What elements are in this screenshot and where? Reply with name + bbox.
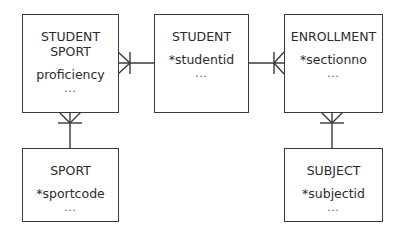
entity-name: ENROLLMENT [291,29,376,44]
entity-attribute: *subjectid [302,186,365,201]
entity-more: ... [327,203,340,213]
entity-subject[interactable]: SUBJECT *subjectid ... [284,148,383,222]
entity-attribute: *studentid [169,52,234,67]
entity-enrollment[interactable]: ENROLLMENT *sectionno ... [284,14,383,113]
entity-name: STUDENT SPORT [41,29,100,59]
entity-name: SPORT [50,163,91,178]
link-student-enrollment [248,52,284,74]
entity-student[interactable]: STUDENT *studentid ... [154,14,249,113]
entity-attribute: *sectionno [300,52,367,67]
link-sport-studentsport [58,112,82,148]
entity-more: ... [195,69,208,79]
entity-student-sport[interactable]: STUDENT SPORT proficiency ... [22,14,119,113]
entity-attribute: proficiency [36,67,105,82]
entity-name: SUBJECT [307,163,361,178]
link-student-studentsport [118,52,154,74]
entity-more: ... [327,69,340,79]
entity-sport[interactable]: SPORT *sportcode ... [22,148,119,222]
entity-attribute: *sportcode [36,186,105,201]
link-subject-enrollment [320,112,344,148]
entity-more: ... [64,84,77,94]
entity-name: STUDENT [172,29,231,44]
entity-more: ... [64,203,77,213]
